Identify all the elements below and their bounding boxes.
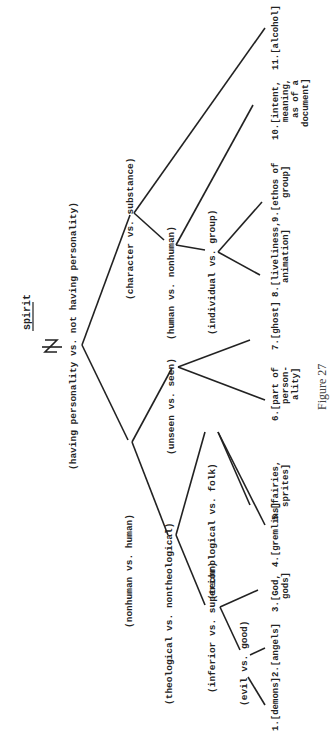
- svg-text:animation]: animation]: [281, 229, 291, 283]
- leaf-7: 7.[ghost]: [271, 301, 281, 350]
- leaf-11: 11.[alcohol]: [271, 5, 281, 70]
- svg-text:3.[God,: 3.[God,: [271, 574, 281, 612]
- svg-text:6.[part of: 6.[part of: [271, 367, 281, 421]
- leaf-10: 10.[intent, meaning, as of a document]: [271, 78, 311, 140]
- svg-text:9.[ethos of: 9.[ethos of: [271, 163, 281, 222]
- svg-text:sprites]: sprites]: [281, 464, 291, 507]
- leaf-9: 9.[ethos of group]: [271, 163, 291, 222]
- figure-caption: Figure 27: [315, 364, 329, 410]
- svg-text:7.[ghost]: 7.[ghost]: [271, 301, 281, 350]
- svg-text:as of a: as of a: [291, 80, 301, 118]
- svg-text:10.[intent,: 10.[intent,: [271, 81, 281, 140]
- title-group: spirit: [22, 294, 62, 352]
- svg-text:ality]: ality]: [291, 368, 301, 400]
- semantic-tree-diagram: spirit (having personality vs. not havin…: [0, 0, 330, 731]
- svg-text:group]: group]: [281, 166, 291, 198]
- svg-text:gods]: gods]: [281, 572, 291, 599]
- diagram-svg: spirit (having personality vs. not havin…: [0, 0, 330, 731]
- leaf-2: 2.[angels]: [271, 623, 281, 677]
- node-unseen-vs-seen: (unseen vs. seen): [166, 358, 177, 455]
- leaf-1: 1.[demons]: [271, 677, 281, 731]
- svg-text:8.[liveliness,: 8.[liveliness,: [271, 221, 281, 297]
- svg-text:1.[demons]: 1.[demons]: [271, 677, 281, 731]
- svg-text:11.[alcohol]: 11.[alcohol]: [271, 5, 281, 70]
- diagram-title: spirit: [22, 294, 33, 330]
- leaf-8: 8.[liveliness, animation]: [271, 221, 291, 297]
- svg-text:2.[angels]: 2.[angels]: [271, 623, 281, 677]
- branch-symbol-icon: [42, 340, 62, 352]
- leaf-5: 5.[fairies, sprites]: [271, 461, 291, 520]
- svg-text:meaning,: meaning,: [281, 79, 291, 122]
- leaf-3: 3.[God, gods]: [271, 572, 291, 612]
- node-theological-vs-nontheological: (theological vs. nontheological): [164, 523, 175, 705]
- node-character-vs-substance: (character vs. substance): [125, 157, 136, 300]
- svg-text:person-: person-: [281, 366, 291, 404]
- node-root: (having personality vs. not having perso…: [68, 202, 79, 470]
- node-individual-vs-group: (individual vs. group): [207, 210, 218, 335]
- node-nonhuman-vs-human: (nonhuman vs. human): [124, 514, 135, 628]
- svg-text:document]: document]: [301, 78, 311, 127]
- node-evil-vs-good: (evil vs. good): [239, 620, 250, 706]
- node-human-vs-nonhuman: (human vs. nonhuman): [166, 226, 177, 340]
- node-technological-vs-folk: (technological vs. folk): [207, 463, 218, 600]
- svg-text:5.[fairies,: 5.[fairies,: [271, 461, 281, 520]
- leaf-6: 6.[part of person- ality]: [271, 366, 301, 421]
